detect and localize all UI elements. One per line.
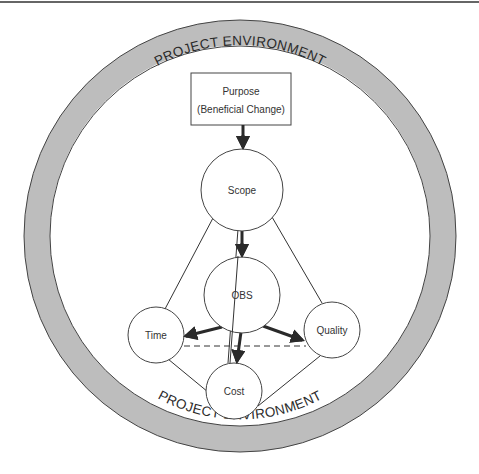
node-cost: Cost (206, 363, 262, 419)
node-quality: Quality (304, 302, 360, 358)
purpose-box: Purpose (Beneficial Change) (191, 73, 291, 125)
node-scope: Scope (201, 149, 283, 231)
project-environment-diagram: PROJECT ENVIRONMENT PROJECT ENVIRONMENT … (0, 0, 479, 474)
node-time: Time (128, 307, 184, 363)
node-scope-label: Scope (228, 185, 257, 196)
node-obs: OBS (204, 257, 280, 333)
purpose-label: Purpose (222, 86, 260, 97)
node-cost-label: Cost (224, 386, 245, 397)
purpose-sublabel: (Beneficial Change) (197, 104, 285, 115)
node-time-label: Time (145, 330, 167, 341)
diagram-svg: PROJECT ENVIRONMENT PROJECT ENVIRONMENT … (0, 0, 479, 474)
node-quality-label: Quality (316, 325, 347, 336)
